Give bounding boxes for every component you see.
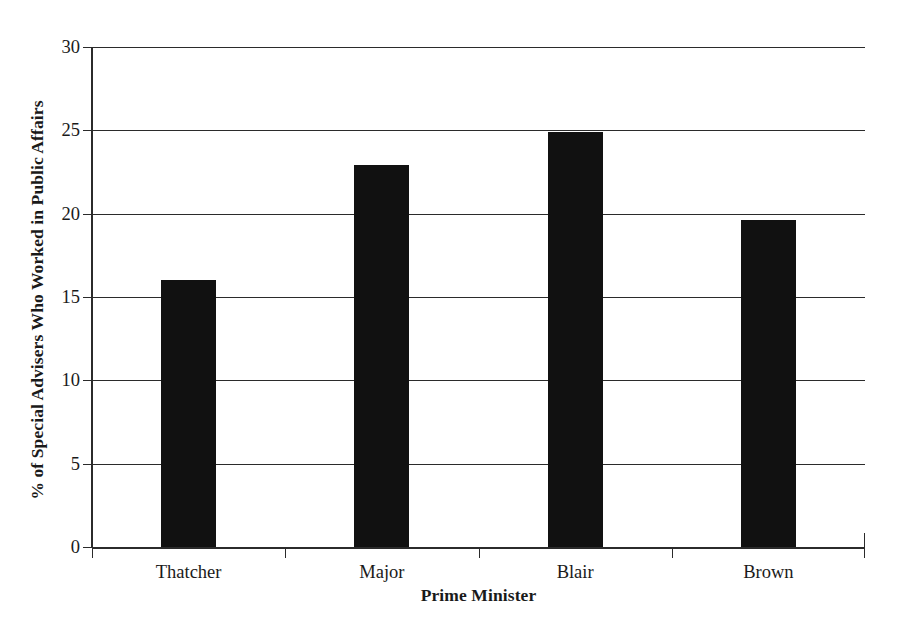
bar [741,220,796,547]
x-axis-title: Prime Minister [92,583,865,607]
y-tick-mark [83,214,92,215]
plot-area [92,47,865,547]
bar [354,165,409,547]
x-tick-mark [285,547,286,558]
x-axis: ThatcherMajorBlairBrown [92,547,865,587]
y-tick-label: 15 [40,286,86,308]
bar-series [92,47,865,547]
y-tick-label: 10 [40,369,86,391]
y-tick-label: 25 [40,119,86,141]
y-tick-label: 0 [40,536,86,558]
bar [548,132,603,547]
x-tick-label-brown: Brown [672,559,865,585]
y-tick-mark [83,47,92,48]
x-tick-mark [92,547,93,558]
y-tick-mark [83,297,92,298]
y-axis-tick-labels: 051015202530 [40,47,86,547]
y-tick-label: 20 [40,203,86,225]
y-tick-mark [83,380,92,381]
x-tick-mark [672,547,673,558]
y-tick-label: 5 [40,453,86,475]
y-tick-mark [83,547,92,548]
x-tick-mark [864,547,865,558]
y-tick-mark [83,130,92,131]
bar-chart-figure: % of Special Advisers Who Worked in Publ… [0,0,897,636]
y-tick-mark [83,464,92,465]
x-tick-label-major: Major [285,559,478,585]
x-tick-label-thatcher: Thatcher [92,559,285,585]
bar [161,280,216,547]
x-tick-mark [479,547,480,558]
y-tick-label: 30 [40,36,86,58]
x-tick-label-blair: Blair [479,559,672,585]
